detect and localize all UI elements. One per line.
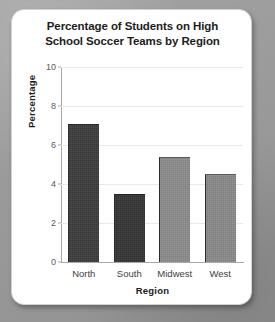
chart-card: Percentage of Students on High School So…: [11, 9, 252, 305]
x-axis-title: Region: [61, 285, 244, 296]
x-tick-label-south: South: [117, 268, 142, 279]
bar-texture: [206, 175, 236, 262]
x-tick-label-west: West: [210, 268, 231, 279]
x-tick-label-north: North: [72, 268, 95, 279]
chart-title: Percentage of Students on High School So…: [22, 19, 243, 48]
chart-title-line-2: School Soccer Teams by Region: [22, 34, 243, 49]
bar-west: [205, 174, 236, 262]
y-axis-title: Percentage: [26, 75, 37, 128]
y-tick-mark: [58, 145, 61, 146]
y-tick-mark: [58, 67, 61, 68]
gridline: [61, 106, 243, 107]
y-tick-label: 8: [51, 101, 56, 111]
y-tick-mark: [58, 106, 61, 107]
bar-texture: [69, 125, 99, 262]
bar-north: [68, 124, 99, 262]
y-tick-label: 4: [51, 179, 56, 189]
plot-area: 0246810: [61, 67, 243, 262]
chart-title-line-1: Percentage of Students on High: [22, 19, 243, 34]
y-tick-mark: [58, 223, 61, 224]
x-tick-label-midwest: Midwest: [157, 268, 192, 279]
y-tick-label: 10: [46, 62, 56, 72]
y-tick-label: 6: [51, 140, 56, 150]
y-tick-label: 2: [51, 218, 56, 228]
gridline: [61, 67, 243, 68]
bar-texture: [160, 158, 190, 262]
bar-south: [114, 194, 145, 262]
y-tick-mark: [58, 184, 61, 185]
y-tick-label: 0: [51, 257, 56, 267]
x-axis-line: [61, 262, 244, 263]
bar-midwest: [159, 157, 190, 262]
y-tick-mark: [58, 262, 61, 263]
bar-texture: [115, 195, 145, 262]
